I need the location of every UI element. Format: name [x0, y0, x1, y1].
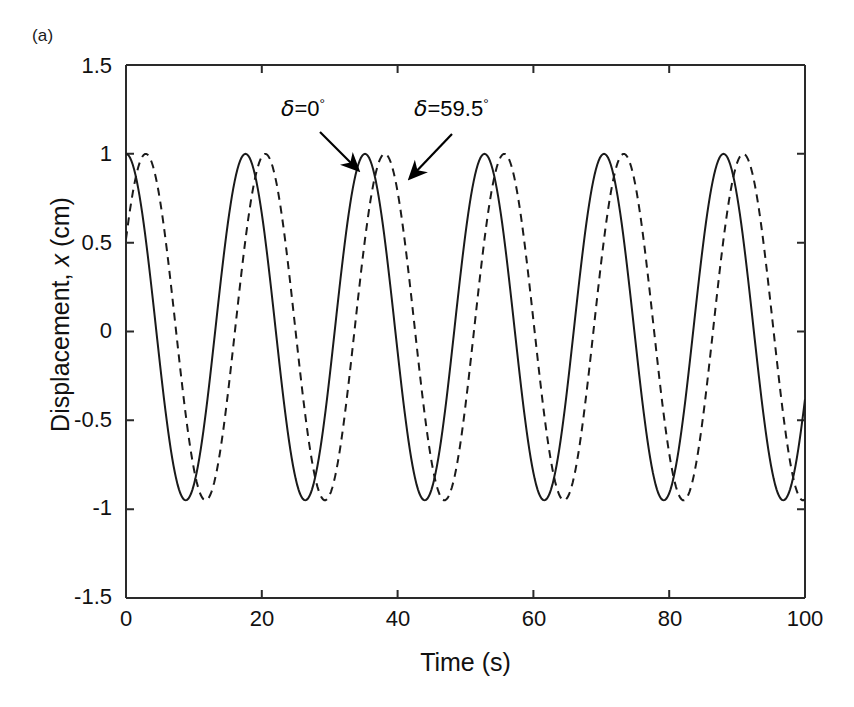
- annotation-arrows: [320, 132, 452, 178]
- plot-svg: [0, 0, 854, 707]
- axis-ticks: [126, 65, 805, 598]
- figure-panel-a: (a) Displacement, x (cm) Time (s) 1.5 1 …: [0, 0, 854, 707]
- data-curve-delta-59p5: [126, 154, 805, 500]
- arrow-to-solid-curve: [320, 132, 358, 170]
- arrow-to-dashed-curve: [410, 134, 452, 178]
- axes-frame: [126, 65, 805, 598]
- data-curve-delta-0: [126, 154, 805, 500]
